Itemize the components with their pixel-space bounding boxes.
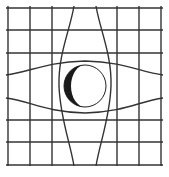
sphere (64, 65, 106, 107)
spacetime-grid-figure (0, 0, 169, 177)
warped-grid-diagram (0, 0, 169, 177)
